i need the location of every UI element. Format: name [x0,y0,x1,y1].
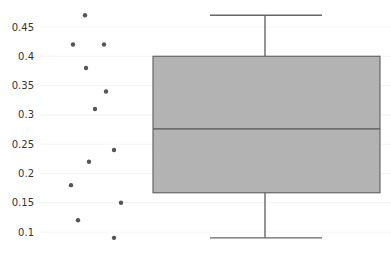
data-point [102,42,106,46]
y-tick-label: 0.3 [18,109,34,120]
y-tick-label: 0.1 [18,227,34,238]
y-tick-label: 0.25 [12,139,34,150]
y-tick-label: 0.15 [12,197,34,208]
interquartile-box [153,56,380,192]
data-point [69,183,73,187]
y-tick-label: 0.4 [18,51,34,62]
data-point [76,218,80,222]
data-point [71,42,75,46]
box-plot-chart: 0.10.150.20.250.30.350.40.45 [0,0,391,253]
y-tick-label: 0.2 [18,168,34,179]
data-point [84,66,88,70]
data-point [87,160,91,164]
data-point [119,201,123,205]
data-point [93,107,97,111]
y-axis: 0.10.150.20.250.30.350.40.45 [12,22,34,238]
data-point [83,13,87,17]
data-point [112,148,116,152]
y-tick-label: 0.35 [12,80,34,91]
y-tick-label: 0.45 [12,22,34,33]
data-point [112,236,116,240]
data-points [69,13,123,240]
data-point [104,89,108,93]
box-plot [153,15,380,238]
